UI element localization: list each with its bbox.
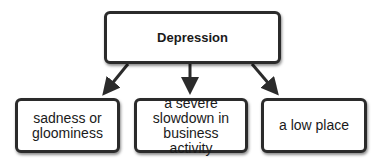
child-concept-label: a low place [275, 118, 353, 133]
child-concept-box-economic-slowdown: a severe slowdown in business activity [134, 98, 248, 153]
child-concept-label: a severe slowdown in business activity [137, 96, 245, 156]
root-concept-label: Depression [157, 30, 228, 45]
arrow-to-child-2 [252, 64, 275, 91]
child-concept-box-low-place: a low place [261, 98, 367, 153]
arrow-to-child-0 [106, 64, 128, 91]
child-concept-box-sadness: sadness or gloominess [15, 98, 120, 153]
child-concept-label: sadness or gloominess [18, 111, 117, 141]
root-concept-box: Depression [104, 11, 281, 64]
